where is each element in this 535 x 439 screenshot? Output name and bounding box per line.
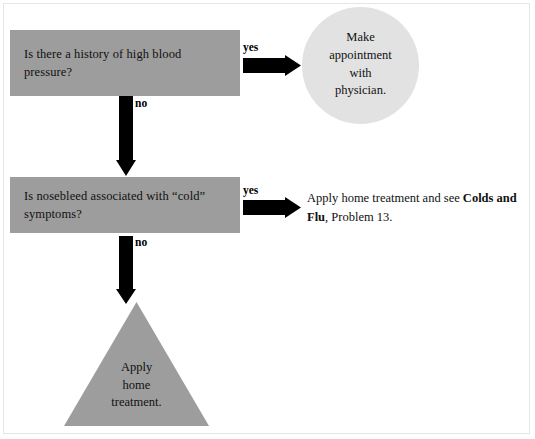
outcome-text-bold1: Colds bbox=[463, 191, 494, 205]
outcome-circle-line1: Make bbox=[346, 30, 374, 44]
edge-label-no-1: no bbox=[135, 97, 147, 109]
edge-label-no-2: no bbox=[135, 236, 147, 248]
arrow-right-yes-1 bbox=[243, 55, 301, 76]
question-box-1-line1: Is there a history of high blood bbox=[24, 47, 181, 61]
question-box-1-line2: pressure? bbox=[24, 65, 72, 79]
outcome-text-colds-and-flu: Apply home treatment and see Colds and F… bbox=[307, 189, 529, 226]
arrow-down-no-2 bbox=[116, 236, 136, 304]
arrow-down-no-1-glyph bbox=[116, 96, 136, 176]
flowchart-canvas: Is there a history of high blood pressur… bbox=[0, 0, 535, 439]
outcome-circle-line4: physician. bbox=[335, 83, 386, 97]
question-box-cold-symptoms[interactable]: Is nosebleed associated with “cold” symp… bbox=[10, 177, 240, 233]
arrow-down-no-2-glyph bbox=[116, 236, 136, 304]
edge-label-yes-2: yes bbox=[243, 184, 258, 196]
arrow-right-yes-2 bbox=[243, 197, 301, 218]
arrow-right-yes-1-glyph bbox=[243, 55, 301, 76]
outcome-triangle-apply-home-treatment[interactable]: Apply home treatment. bbox=[64, 302, 209, 426]
outcome-circle-line2: appointment bbox=[329, 48, 392, 62]
arrow-right-yes-2-glyph bbox=[243, 197, 301, 218]
edge-label-yes-1: yes bbox=[243, 41, 258, 53]
outcome-triangle-line1: Apply bbox=[121, 360, 152, 374]
outcome-text-part1: Apply home treatment and see bbox=[307, 191, 463, 205]
outcome-triangle-line2: home bbox=[123, 378, 151, 392]
outcome-circle-text: Make appointment with physician. bbox=[329, 29, 392, 102]
outcome-triangle-text: Apply home treatment. bbox=[64, 359, 209, 412]
outcome-text-part2: , Problem 13. bbox=[325, 210, 392, 224]
outcome-circle-line3: with bbox=[349, 66, 371, 80]
outcome-circle-make-appointment[interactable]: Make appointment with physician. bbox=[302, 7, 419, 124]
question-box-1-text: Is there a history of high blood pressur… bbox=[10, 45, 189, 81]
question-box-2-line1: Is nosebleed associated with “cold” bbox=[24, 189, 205, 203]
outcome-triangle-line3: treatment. bbox=[111, 395, 161, 409]
question-box-high-blood-pressure[interactable]: Is there a history of high blood pressur… bbox=[10, 30, 240, 96]
question-box-2-line2: symptoms? bbox=[24, 207, 82, 221]
arrow-down-no-1 bbox=[116, 96, 136, 176]
question-box-2-text: Is nosebleed associated with “cold” symp… bbox=[10, 187, 213, 223]
